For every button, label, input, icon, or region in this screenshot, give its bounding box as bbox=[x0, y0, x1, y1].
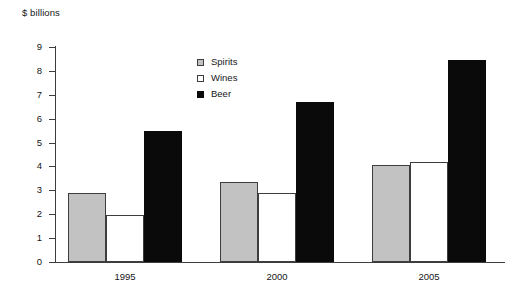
x-tick-label-1995: 1995 bbox=[95, 272, 155, 282]
y-tick-label-wrap: 8 bbox=[0, 66, 42, 76]
bar-wines-2000 bbox=[258, 193, 296, 262]
bar-beer-2005 bbox=[448, 60, 486, 262]
bar-group-2005 bbox=[372, 47, 486, 262]
y-tick-label-wrap: 9 bbox=[0, 42, 42, 52]
y-tick-label: 3 bbox=[0, 185, 42, 195]
y-tick-label-wrap: 4 bbox=[0, 161, 42, 171]
y-tick-label-wrap: 2 bbox=[0, 209, 42, 219]
y-tick-mark bbox=[49, 190, 56, 191]
legend-label: Spirits bbox=[211, 57, 237, 67]
y-tick-mark bbox=[49, 47, 56, 48]
bar-spirits-2000 bbox=[220, 182, 258, 262]
y-tick-mark bbox=[49, 262, 56, 263]
bar-beer-2000 bbox=[296, 102, 334, 262]
legend-label: Beer bbox=[211, 89, 231, 99]
y-tick-label: 9 bbox=[0, 42, 42, 52]
y-tick-label-wrap: 7 bbox=[0, 90, 42, 100]
legend-swatch-icon-spirits bbox=[197, 59, 204, 66]
y-tick-label: 8 bbox=[0, 66, 42, 76]
y-tick-label-wrap: 6 bbox=[0, 114, 42, 124]
legend-item-wines: Wines bbox=[197, 70, 237, 86]
x-tick-label-2005: 2005 bbox=[399, 272, 459, 282]
y-tick-label: 7 bbox=[0, 90, 42, 100]
y-tick-mark bbox=[49, 166, 56, 167]
y-tick-mark bbox=[49, 143, 56, 144]
y-axis-title: $ billions bbox=[22, 7, 60, 18]
legend-swatch-icon-wines bbox=[197, 75, 204, 82]
legend-label: Wines bbox=[211, 73, 237, 83]
bar-spirits-1995 bbox=[68, 193, 106, 262]
legend-item-beer: Beer bbox=[197, 86, 237, 102]
y-tick-label-wrap: 3 bbox=[0, 185, 42, 195]
bar-group-1995 bbox=[68, 47, 182, 262]
y-tick-mark bbox=[49, 119, 56, 120]
y-tick-mark bbox=[49, 214, 56, 215]
y-tick-mark bbox=[49, 238, 56, 239]
bar-wines-2005 bbox=[410, 162, 448, 262]
bar-wines-1995 bbox=[106, 215, 144, 262]
legend-swatch-icon-beer bbox=[197, 91, 204, 98]
y-tick-mark bbox=[49, 95, 56, 96]
x-tick-label-2000: 2000 bbox=[247, 272, 307, 282]
bar-chart: $ billions 0123456789 199520002005 Spiri… bbox=[0, 0, 521, 300]
y-tick-label: 2 bbox=[0, 209, 42, 219]
y-tick-label: 6 bbox=[0, 114, 42, 124]
bar-spirits-2005 bbox=[372, 165, 410, 262]
x-axis-line bbox=[55, 262, 505, 263]
y-tick-label-wrap: 5 bbox=[0, 138, 42, 148]
bar-beer-1995 bbox=[144, 131, 182, 262]
y-tick-label: 4 bbox=[0, 161, 42, 171]
y-tick-label-wrap: 0 bbox=[0, 257, 42, 267]
chart-legend: SpiritsWinesBeer bbox=[197, 54, 237, 102]
y-tick-mark bbox=[49, 71, 56, 72]
y-tick-label: 1 bbox=[0, 233, 42, 243]
y-tick-label-wrap: 1 bbox=[0, 233, 42, 243]
y-tick-label: 5 bbox=[0, 138, 42, 148]
y-tick-label: 0 bbox=[0, 257, 42, 267]
plot-area bbox=[56, 47, 505, 262]
legend-item-spirits: Spirits bbox=[197, 54, 237, 70]
